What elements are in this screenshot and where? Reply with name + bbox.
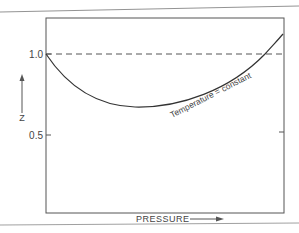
x-axis-label: PRESSURE xyxy=(136,214,190,224)
plot-frame xyxy=(46,18,284,213)
curve-annotation: Temperature = constant xyxy=(168,70,253,120)
chart-figure: 1.0 0.5 Z PRESSURE Temperature = constan… xyxy=(0,0,299,233)
x-axis-arrow-icon xyxy=(216,217,224,222)
y-tick-label-1: 1.0 xyxy=(29,49,43,60)
y-axis-label: Z xyxy=(19,113,25,123)
y-tick-label-05: 0.5 xyxy=(29,130,43,141)
scan-edge-top xyxy=(0,6,299,12)
y-axis-arrow-icon xyxy=(20,74,25,81)
